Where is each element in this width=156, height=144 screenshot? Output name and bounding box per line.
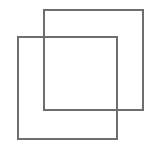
front-square bbox=[17, 36, 118, 140]
